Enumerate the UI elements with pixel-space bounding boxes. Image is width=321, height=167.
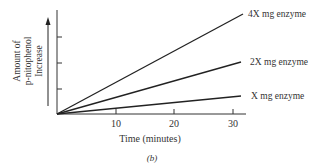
series-label-2x: 2X mg enzyme	[250, 57, 308, 67]
series-line-2x	[57, 62, 241, 114]
x-tick-label: 10	[111, 118, 121, 129]
panel-label: (b)	[147, 153, 158, 163]
x-tick-label: 30	[228, 118, 238, 129]
y-label-line2: p-nitophenol	[23, 36, 33, 85]
arrow-head-icon	[46, 17, 51, 25]
chart: 10 20 30 4X mg enzyme 2X mg enzyme X mg …	[0, 0, 321, 167]
series-label-4x: 4X mg enzyme	[248, 9, 306, 19]
x-tick-label: 20	[169, 118, 179, 129]
x-ticks	[116, 109, 233, 114]
x-axis-label: Time (minutes)	[119, 133, 181, 145]
y-arrow-label: Increase	[34, 45, 44, 77]
y-label-line1: Amount of	[12, 39, 22, 81]
y-ticks	[57, 37, 62, 89]
series-label-1x: X mg enzyme	[251, 91, 304, 101]
